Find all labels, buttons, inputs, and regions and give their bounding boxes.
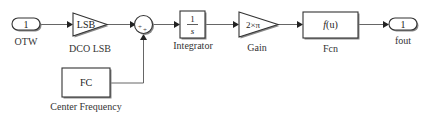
- wire-center-frequency-to-sum[interactable]: [111, 34, 147, 83]
- integrator-block[interactable]: 1 s: [180, 11, 207, 40]
- arrow-head-icon: [174, 21, 180, 28]
- wire-fcn-to-fout[interactable]: [359, 21, 389, 28]
- integrator-numerator: 1: [190, 14, 195, 24]
- center-frequency-value: FC: [80, 77, 93, 88]
- integrator-label[interactable]: Integrator: [173, 40, 213, 51]
- dco-lsb-gain-block[interactable]: LSB: [73, 13, 109, 38]
- center-frequency-label[interactable]: Center Frequency: [50, 101, 121, 112]
- dco-lsb-gain-value: LSB: [77, 19, 96, 30]
- sum-block[interactable]: + +: [135, 16, 155, 36]
- wire-gain-to-fcn[interactable]: [278, 21, 303, 28]
- arrow-head-icon: [233, 21, 239, 28]
- dco-lsb-label[interactable]: DCO LSB: [69, 43, 111, 54]
- arrow-head-icon: [297, 21, 303, 28]
- wire-sum-to-integrator[interactable]: [153, 21, 180, 28]
- sum-sign-bottom: +: [143, 26, 147, 34]
- wire-dco-lsb-to-sum[interactable]: [107, 21, 136, 28]
- fcn-label[interactable]: Fcn: [323, 43, 338, 54]
- sum-sign-left: +: [138, 23, 142, 31]
- fcn-expression: f(u): [323, 19, 337, 31]
- gain-label[interactable]: Gain: [247, 42, 266, 53]
- wire-otw-to-dco-lsb[interactable]: [40, 21, 73, 28]
- fcn-block[interactable]: f(u): [303, 12, 360, 40]
- fout-port-number: 1: [401, 19, 406, 30]
- otw-inport-block[interactable]: 1: [12, 18, 42, 32]
- fout-label[interactable]: fout: [395, 35, 411, 46]
- gain-value: 2×π: [246, 20, 261, 30]
- simulink-diagram: 1 OTW LSB DCO LSB + + FC Center Frequenc…: [0, 0, 429, 117]
- integrator-denominator: s: [191, 26, 195, 36]
- fout-outport-block[interactable]: 1: [389, 18, 419, 32]
- arrow-head-icon: [67, 21, 73, 28]
- center-frequency-constant-block[interactable]: FC: [62, 68, 112, 99]
- arrow-head-icon: [383, 21, 389, 28]
- wire-integrator-to-gain[interactable]: [206, 21, 239, 28]
- gain-block[interactable]: 2×π: [239, 12, 280, 39]
- otw-label[interactable]: OTW: [15, 36, 38, 47]
- otw-port-number: 1: [24, 19, 29, 30]
